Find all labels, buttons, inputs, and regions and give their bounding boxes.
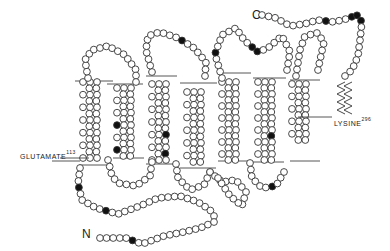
residue-marked <box>114 146 121 153</box>
c-terminus-label: C <box>252 8 261 22</box>
residue <box>296 53 303 60</box>
residue <box>303 106 310 113</box>
residue <box>198 127 205 134</box>
residue <box>87 142 94 149</box>
residue <box>149 69 156 76</box>
residue <box>307 31 314 38</box>
residue <box>302 124 309 131</box>
residue <box>336 17 343 24</box>
residue <box>86 148 93 155</box>
residue <box>296 106 303 113</box>
residue <box>342 73 349 80</box>
residue-marked <box>358 17 365 24</box>
residue <box>165 194 172 201</box>
residue <box>184 101 191 108</box>
residue <box>93 98 100 105</box>
residue <box>191 89 198 96</box>
residue-marked <box>323 18 330 25</box>
residue <box>85 75 92 82</box>
residue <box>121 109 128 116</box>
residue <box>147 62 154 69</box>
residue <box>106 163 113 170</box>
lysine-label: LYSINE296 <box>334 116 371 127</box>
residue <box>179 229 186 236</box>
residue <box>149 81 156 88</box>
residue <box>215 62 222 69</box>
residue <box>162 125 169 132</box>
diagram-canvas <box>0 0 390 251</box>
residue <box>97 235 104 242</box>
residue <box>156 81 163 88</box>
residue <box>202 73 209 80</box>
residue <box>94 155 101 162</box>
residue <box>289 106 296 113</box>
residue <box>190 146 197 153</box>
residue <box>87 129 94 136</box>
residue <box>155 87 162 94</box>
residue <box>197 95 204 102</box>
residue <box>190 159 197 166</box>
residue <box>358 24 365 31</box>
residue <box>132 66 139 73</box>
residue <box>93 148 100 155</box>
residue <box>184 152 191 159</box>
residue <box>284 67 291 74</box>
residue <box>77 190 84 197</box>
residue <box>213 56 220 63</box>
residue <box>357 30 364 37</box>
residue <box>147 172 154 179</box>
residue <box>97 45 104 52</box>
residue <box>148 165 155 172</box>
residue <box>303 81 310 88</box>
retinal-zigzag-icon <box>337 82 345 114</box>
residue <box>114 85 121 92</box>
residue <box>173 230 180 237</box>
residue <box>127 91 134 98</box>
residue <box>160 233 167 240</box>
residue <box>127 116 134 123</box>
residue <box>184 89 191 96</box>
residue <box>155 100 162 107</box>
glutamate-label: GLUTAMATE113 <box>20 149 76 160</box>
residue <box>289 118 296 125</box>
residue <box>329 18 336 25</box>
residue <box>94 117 101 124</box>
residue <box>265 13 272 20</box>
residue <box>296 93 303 100</box>
residue <box>149 119 156 126</box>
residue <box>120 140 127 147</box>
residue <box>302 112 309 119</box>
residue <box>162 87 169 94</box>
residue <box>103 235 110 242</box>
residue <box>76 171 83 178</box>
residue <box>294 66 301 73</box>
residue <box>80 91 87 98</box>
residue <box>148 32 155 39</box>
residue <box>116 180 123 187</box>
residue <box>241 195 248 202</box>
residue <box>303 130 310 137</box>
residue <box>211 219 218 226</box>
residue <box>268 157 275 164</box>
residue <box>143 43 150 50</box>
residue <box>86 110 93 117</box>
residue <box>289 93 296 100</box>
residue <box>80 104 87 111</box>
residue <box>86 98 93 105</box>
residue <box>120 153 127 160</box>
residue <box>156 93 163 100</box>
residue <box>158 194 165 201</box>
residue <box>285 60 292 67</box>
residue <box>262 184 269 191</box>
residue <box>155 125 162 132</box>
residue <box>133 72 140 79</box>
residue <box>198 114 205 121</box>
residue <box>191 101 198 108</box>
residue <box>316 17 323 24</box>
residue <box>160 30 167 37</box>
residue <box>128 146 135 153</box>
residue <box>299 40 306 47</box>
residue <box>243 189 250 196</box>
residue <box>191 140 198 147</box>
residue-marked <box>162 150 169 157</box>
